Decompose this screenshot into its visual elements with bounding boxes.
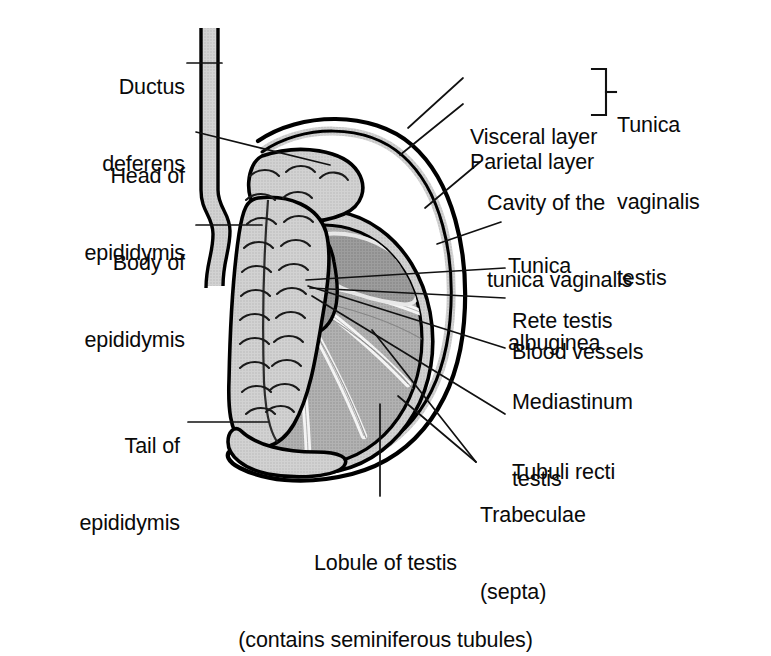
label-body-of-epididymis-line-1: Body of	[0, 251, 185, 277]
label-body-of-epididymis-line-2: epididymis	[0, 328, 185, 354]
label-lobule-of-testis-line-2: (contains seminiferous tubules)	[0, 628, 771, 654]
label-body-of-epididymis: Body of epididymis	[0, 200, 185, 404]
label-lobule-of-testis-line-1: Lobule of testis	[0, 551, 771, 577]
leader-visceral-layer	[408, 78, 463, 128]
label-head-of-epididymis-line-1: Head of	[0, 164, 185, 190]
leader-parietal-layer	[400, 104, 463, 155]
label-lobule-of-testis: Lobule of testis (contains seminiferous …	[0, 500, 771, 656]
label-tunica-vaginalis-testis-line-1: Tunica	[617, 113, 700, 139]
label-tail-of-epididymis-line-1: Tail of	[0, 434, 180, 460]
label-ductus-deferens-line-1: Ductus	[0, 75, 185, 101]
ductus-deferens-structure	[201, 28, 230, 288]
